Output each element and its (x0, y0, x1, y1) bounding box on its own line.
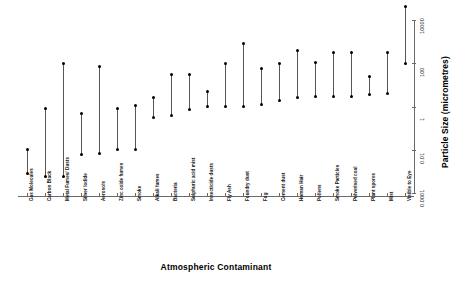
x-axis-tick-label: Pulverised coal (353, 167, 358, 201)
range-dot-max (116, 107, 119, 110)
range-marker (315, 0, 316, 283)
y-axis-tick-label: 0.0001 (419, 190, 425, 207)
range-line (369, 76, 370, 94)
range-dot-max (62, 62, 65, 65)
range-line (27, 150, 28, 174)
x-axis-tick (45, 193, 46, 197)
x-axis-tick-label: Insecticide dusts (209, 163, 214, 201)
range-dot-max (188, 73, 191, 76)
range-dot-min (242, 105, 245, 108)
x-axis-tick-label: Gas Molecules (29, 168, 34, 201)
range-dot-min (296, 96, 299, 99)
x-axis-tick-label: Bacteria (173, 182, 178, 201)
range-line (261, 68, 262, 105)
x-axis-tick (207, 193, 208, 197)
range-dot-min (98, 152, 101, 155)
range-dot-min (368, 93, 371, 96)
range-dot-max (260, 67, 263, 70)
range-marker (297, 0, 298, 283)
range-marker (81, 0, 82, 283)
range-marker (207, 0, 208, 283)
x-axis-tick (99, 193, 100, 197)
range-marker (63, 0, 64, 283)
range-line (63, 63, 64, 176)
x-axis-tick (405, 193, 406, 197)
range-line (387, 53, 388, 94)
range-dot-min (188, 108, 191, 111)
x-axis-tick-label: Fog (263, 192, 268, 201)
range-dot-min (404, 62, 407, 65)
range-dot-max (224, 62, 227, 65)
y-axis-tick (412, 193, 416, 194)
x-axis-tick-label: Smoke (137, 186, 142, 201)
x-axis-tick (279, 193, 280, 197)
x-axis-tick-label: Zinc oxide fumes (119, 163, 124, 201)
range-line (135, 106, 136, 150)
range-marker (117, 0, 118, 283)
y-axis-tick (412, 107, 416, 108)
range-dot-min (206, 105, 209, 108)
range-dot-min (224, 105, 227, 108)
range-dot-max (332, 51, 335, 54)
range-dot-max (134, 104, 137, 107)
range-marker (171, 0, 172, 283)
x-axis-tick (333, 193, 334, 197)
y-axis-tick-label: 0.01 (419, 153, 425, 164)
range-line (333, 53, 334, 96)
x-axis-tick (351, 193, 352, 197)
range-line (405, 7, 406, 63)
y-axis-tick (412, 20, 416, 21)
range-dot-max (26, 148, 29, 151)
range-dot-min (80, 153, 83, 156)
range-dot-min (350, 95, 353, 98)
range-line (99, 67, 100, 154)
x-axis-tick-label: Alkali fumes (155, 173, 160, 201)
x-axis-tick-label: Aerosols (101, 181, 106, 201)
range-line (315, 62, 316, 96)
x-axis-tick (261, 193, 262, 197)
range-line (117, 109, 118, 150)
x-axis-tick (387, 193, 388, 197)
range-dot-max (314, 61, 317, 64)
x-axis-tick-label: Sulphuric acid mist (191, 158, 196, 201)
y-axis-title: Particle Size (micrometres) (440, 56, 450, 168)
range-marker (225, 0, 226, 283)
range-dot-max (44, 107, 47, 110)
y-axis-tick-label: 10000 (419, 18, 425, 34)
range-marker (99, 0, 100, 283)
range-dot-min (134, 148, 137, 151)
x-axis-tick-label: Pollens (317, 184, 322, 201)
x-axis-tick-label: Smoke Particles (335, 165, 340, 201)
range-marker (27, 0, 28, 283)
range-dot-min (332, 95, 335, 98)
range-line (243, 44, 244, 107)
x-axis-tick-label: Carbon Black (47, 171, 52, 201)
range-marker (351, 0, 352, 283)
range-marker (333, 0, 334, 283)
range-dot-max (296, 49, 299, 52)
range-dot-min (278, 99, 281, 102)
y-axis-tick-label: 100 (419, 68, 425, 77)
range-marker (243, 0, 244, 283)
x-axis-tick-label: Foundry dust (245, 171, 250, 201)
x-axis-tick (81, 193, 82, 197)
x-axis-tick (153, 193, 154, 197)
range-dot-max (170, 73, 173, 76)
x-axis-tick (27, 193, 28, 197)
range-marker (405, 0, 406, 283)
range-marker (369, 0, 370, 283)
range-marker (261, 0, 262, 283)
range-line (189, 75, 190, 110)
range-dot-max (80, 112, 83, 115)
y-axis-tick-label: 1 (419, 117, 425, 120)
range-dot-max (386, 51, 389, 54)
y-axis-tick (412, 63, 416, 64)
range-dot-max (368, 75, 371, 78)
range-marker (189, 0, 190, 283)
x-axis-tick (315, 193, 316, 197)
range-dot-max (206, 90, 209, 93)
particle-size-chart: Particle Size (micrometres) Atmospheric … (0, 0, 459, 283)
x-axis-tick-label: Human Hair (299, 175, 304, 201)
range-dot-max (350, 51, 353, 54)
range-dot-max (242, 42, 245, 45)
